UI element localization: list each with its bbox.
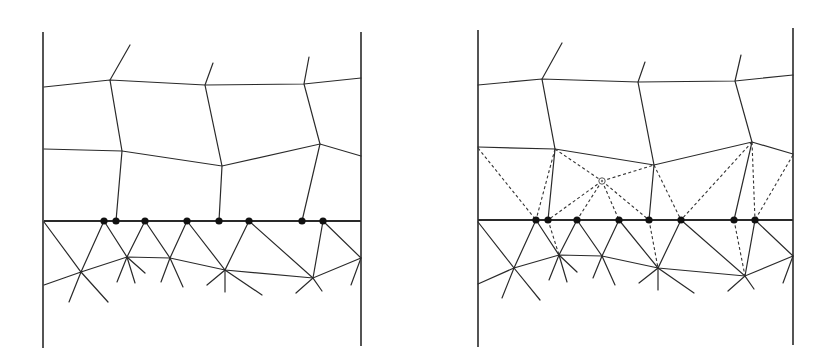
interface-node — [677, 216, 684, 223]
quad-mesh-column-line — [542, 43, 562, 220]
dashed-connection — [536, 149, 555, 220]
dashed-connection — [755, 155, 793, 220]
dashed-connection — [681, 142, 752, 220]
dashed-connection — [478, 148, 536, 220]
quad-mesh-row-line — [478, 75, 793, 85]
tri-mesh-edge — [577, 220, 602, 256]
interface-node — [615, 216, 622, 223]
lower-mesh-line — [44, 257, 361, 285]
quad-mesh-column-line — [205, 63, 222, 221]
quad-mesh-column-line — [638, 62, 654, 220]
interface-node — [319, 217, 326, 224]
tri-mesh-edge — [161, 258, 170, 282]
quad-mesh-column-line — [302, 57, 320, 221]
tri-mesh-edge — [313, 221, 323, 291]
interface-node — [730, 216, 737, 223]
quad-mesh-row-line — [478, 142, 793, 165]
dashed-connection — [602, 181, 649, 220]
tri-mesh-edge — [536, 220, 577, 272]
interface-node — [215, 217, 222, 224]
quad-mesh-column-line — [110, 45, 130, 221]
interface-node — [112, 217, 119, 224]
interface-node — [751, 216, 758, 223]
dashed-connection — [602, 181, 619, 220]
dashed-connection — [649, 220, 658, 268]
interface-node — [100, 217, 107, 224]
left-mesh-panel — [43, 32, 361, 348]
right-mesh-panel — [478, 28, 793, 347]
tri-mesh-edge — [69, 221, 104, 302]
tri-mesh-edge — [602, 220, 619, 285]
dashed-connection — [602, 165, 654, 181]
tri-mesh-edge — [745, 220, 755, 289]
dashed-connection — [654, 165, 681, 220]
tri-mesh-edge — [145, 221, 170, 258]
dashed-connection — [548, 181, 602, 220]
tri-mesh-edge — [249, 221, 313, 293]
interface-node — [544, 216, 551, 223]
interface-node — [645, 216, 652, 223]
dashed-connection — [555, 149, 602, 181]
tri-mesh-edge — [117, 221, 145, 282]
tri-mesh-edge — [619, 220, 694, 293]
interface-node — [141, 217, 148, 224]
tri-mesh-edge — [755, 220, 793, 283]
dashed-connection — [548, 220, 559, 255]
tri-mesh-edge — [207, 221, 249, 285]
mesh-diagram — [0, 0, 830, 363]
tri-mesh-edge — [323, 221, 361, 285]
dashed-connection — [752, 142, 755, 220]
tri-mesh-edge — [593, 256, 602, 278]
tri-mesh-edge — [104, 221, 145, 273]
quad-mesh-row-line — [44, 78, 361, 87]
interface-node — [245, 217, 252, 224]
interface-node — [573, 216, 580, 223]
tri-mesh-edge — [681, 220, 745, 291]
dashed-connection — [577, 181, 602, 220]
interface-node — [298, 217, 305, 224]
tri-mesh-edge — [478, 222, 540, 300]
inserted-node-center — [601, 180, 603, 182]
interface-node — [183, 217, 190, 224]
tri-mesh-edge — [170, 221, 187, 287]
tri-mesh-edge — [549, 220, 577, 280]
quad-mesh-row-line — [44, 144, 361, 166]
figure-canvas — [0, 0, 830, 363]
interface-node — [532, 216, 539, 223]
